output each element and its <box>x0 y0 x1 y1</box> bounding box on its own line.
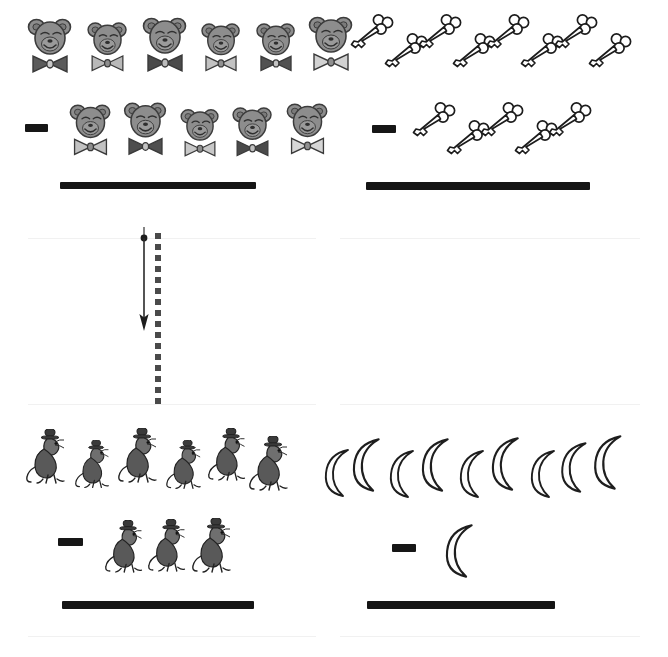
bear-head-with-bowtie <box>177 105 223 161</box>
problem-top-left <box>0 0 334 210</box>
guide-rule-right-upper <box>340 238 640 239</box>
bowtie <box>129 139 162 155</box>
bowtie <box>185 142 215 156</box>
subtrahend-row <box>0 420 334 600</box>
guide-rule-right-mid <box>340 404 640 405</box>
mouse-with-hat-icon <box>105 520 153 576</box>
bowtie <box>75 139 107 154</box>
problem-bottom-right <box>334 420 668 657</box>
subtrahend-row <box>334 420 668 600</box>
answer-line[interactable] <box>366 182 590 190</box>
guide-rule-left-upper <box>28 238 316 239</box>
bear-head-with-bowtie <box>66 100 115 160</box>
answer-line[interactable] <box>62 601 254 609</box>
dashed-cut-line <box>155 233 161 408</box>
bear-head-with-bowtie <box>229 103 276 161</box>
down-arrow-icon <box>136 226 152 336</box>
problem-top-right <box>334 0 668 210</box>
mouse-with-hat-icon <box>192 518 242 576</box>
bowtie <box>292 138 324 153</box>
subtrahend-row <box>0 0 334 180</box>
bowtie <box>237 141 268 155</box>
answer-line[interactable] <box>60 182 256 189</box>
answer-line[interactable] <box>367 601 555 609</box>
worksheet-page <box>0 0 668 657</box>
guide-rule-left-mid <box>28 404 316 405</box>
subtrahend-row <box>334 0 668 180</box>
bear-head-with-bowtie <box>283 99 332 159</box>
crescent-moon-icon <box>438 522 483 580</box>
mouse-with-hat-icon <box>148 519 196 575</box>
problem-bottom-left <box>0 420 334 657</box>
skeleton-key-icon <box>545 97 593 149</box>
bear-head-with-bowtie <box>120 98 171 160</box>
